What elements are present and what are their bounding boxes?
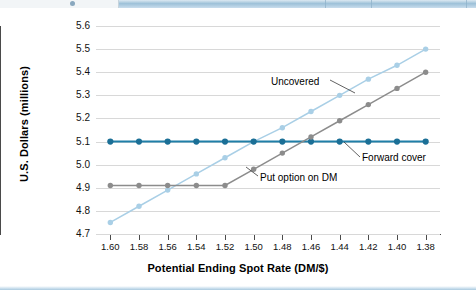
footer-rule: [0, 286, 476, 290]
data-point: [366, 76, 371, 81]
gridline: [96, 234, 440, 235]
data-point: [308, 134, 313, 139]
data-point: [423, 46, 428, 51]
y-tick-label: 5.6: [48, 20, 90, 31]
y-tick-label: 5.2: [48, 112, 90, 123]
chart-figure: U.S. Dollars (millions) 5.65.55.45.35.25…: [0, 0, 476, 290]
x-tick-mark: [139, 235, 140, 240]
data-point: [194, 171, 199, 176]
title-band-tick: [325, 0, 326, 8]
data-point: [308, 109, 313, 114]
data-point: [394, 138, 400, 144]
data-point: [108, 183, 113, 188]
y-tick-label: 4.7: [48, 228, 90, 239]
data-point: [280, 150, 285, 155]
title-band-tick: [371, 0, 372, 8]
data-point: [365, 138, 371, 144]
x-tick-mark: [196, 235, 197, 240]
data-point: [165, 187, 170, 192]
data-point: [193, 138, 199, 144]
x-tick-mark: [311, 235, 312, 240]
title-band-tick: [466, 0, 467, 8]
x-tick-mark: [368, 235, 369, 240]
y-tick-label: 4.8: [48, 205, 90, 216]
y-tick-label: 5.1: [48, 136, 90, 147]
data-point: [280, 125, 285, 130]
data-point: [222, 155, 227, 160]
title-band-left-panel: [0, 0, 119, 8]
data-point: [337, 118, 342, 123]
data-point: [337, 138, 343, 144]
data-point: [279, 138, 285, 144]
annotation-uncovered: Uncovered: [271, 76, 319, 87]
data-point: [222, 138, 228, 144]
data-point: [337, 93, 342, 98]
series-line-uncovered: [110, 49, 425, 222]
x-tick-mark: [397, 235, 398, 240]
data-point: [136, 138, 142, 144]
x-tick-mark: [282, 235, 283, 240]
plot-area: [96, 26, 440, 234]
y-tick-label: 5.4: [48, 66, 90, 77]
x-tick-mark: [340, 235, 341, 240]
data-point: [108, 220, 113, 225]
x-tick-label: 1.38: [406, 241, 446, 252]
series-line-put-option-on-dm: [110, 72, 425, 185]
data-point: [222, 183, 227, 188]
data-point: [366, 102, 371, 107]
x-tick-mark: [426, 235, 427, 240]
y-axis-line: [0, 26, 1, 235]
annotation-put-option: Put option on DM: [260, 172, 337, 183]
data-point: [394, 86, 399, 91]
data-point: [251, 167, 256, 172]
x-tick-mark: [168, 235, 169, 240]
y-tick-label: 5.5: [48, 43, 90, 54]
data-point: [423, 138, 429, 144]
y-axis-title: U.S. Dollars (millions): [18, 44, 30, 204]
window-title-band: [0, 0, 476, 9]
data-point: [136, 204, 141, 209]
series-lines: [96, 26, 440, 234]
data-point: [251, 138, 257, 144]
data-point: [394, 63, 399, 68]
annotation-forward-cover: Forward cover: [362, 152, 426, 163]
data-point: [136, 183, 141, 188]
title-band-dot: [70, 1, 75, 6]
data-point: [107, 138, 113, 144]
data-point: [165, 138, 171, 144]
x-axis-title: Potential Ending Spot Rate (DM/$): [0, 262, 476, 274]
x-tick-mark: [225, 235, 226, 240]
y-tick-label: 4.9: [48, 182, 90, 193]
y-tick-label: 5.0: [48, 159, 90, 170]
y-tick-label: 5.3: [48, 89, 90, 100]
data-point: [194, 183, 199, 188]
data-point: [165, 183, 170, 188]
x-tick-mark: [254, 235, 255, 240]
data-point: [423, 70, 428, 75]
x-tick-mark: [110, 235, 111, 240]
